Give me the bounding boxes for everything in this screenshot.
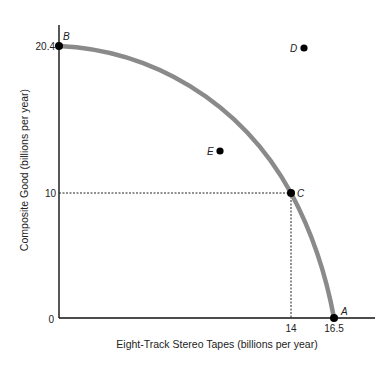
- ppf-curve: [59, 46, 334, 318]
- point-b-label: B: [63, 31, 70, 42]
- x-tick-16-5: 16.5: [324, 323, 344, 334]
- point-c: [287, 189, 295, 197]
- x-tick-14: 14: [285, 323, 297, 334]
- x-axis-label: Eight-Track Stereo Tapes (billions per y…: [116, 338, 317, 350]
- point-c-label: C: [297, 188, 305, 199]
- x-tick-0: 0: [48, 314, 54, 325]
- ppf-chart: B C A D E 20.4 10 0 14 16.5 Eight-Track …: [0, 0, 392, 367]
- point-d: [300, 44, 307, 51]
- y-tick-10: 10: [45, 188, 57, 199]
- point-b: [55, 42, 63, 50]
- y-axis-label: Composite Good (billions per year): [18, 89, 30, 251]
- point-e-label: E: [207, 146, 214, 157]
- point-e: [216, 147, 223, 154]
- y-tick-20-4: 20.4: [36, 41, 56, 52]
- point-d-label: D: [290, 43, 297, 54]
- point-a-label: A: [340, 306, 348, 317]
- point-a: [330, 314, 338, 322]
